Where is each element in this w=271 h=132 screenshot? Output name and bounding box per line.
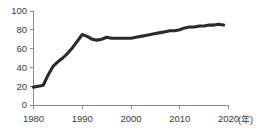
data-line-series-1	[34, 24, 224, 87]
y-tick-label: 0	[22, 99, 27, 110]
x-axis: 19801990200020102020	[23, 105, 239, 124]
plot-area	[34, 24, 224, 87]
y-tick-label-group: 020406080100	[11, 5, 27, 110]
x-tick-label: 1990	[72, 113, 93, 124]
y-tick-label: 100	[11, 5, 27, 16]
x-tick-label: 2020	[218, 113, 239, 124]
x-axis-unit-label: (年)	[238, 114, 253, 125]
line-chart: 020406080100 19801990200020102020 (年)	[0, 0, 271, 132]
y-tick-group	[30, 11, 34, 105]
x-tick-label-group: 19801990200020102020	[23, 113, 239, 124]
y-tick-label: 80	[16, 24, 27, 35]
chart-canvas: 020406080100 19801990200020102020 (年)	[0, 0, 271, 132]
y-tick-label: 60	[16, 43, 27, 54]
y-tick-label: 20	[16, 81, 27, 92]
x-tick-label: 2000	[120, 113, 141, 124]
x-tick-label: 1980	[23, 113, 44, 124]
y-tick-label: 40	[16, 62, 27, 73]
y-axis: 020406080100	[11, 5, 33, 110]
x-tick-label: 2010	[169, 113, 190, 124]
